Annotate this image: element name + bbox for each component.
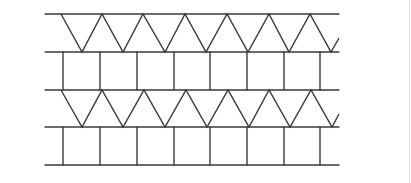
zigzag-strip [61, 90, 339, 127]
zigzag-line [61, 14, 339, 52]
horizontal-lines [45, 14, 339, 165]
frame-right-border [409, 0, 410, 183]
pattern-figure [0, 0, 411, 183]
rectangle-strip [63, 52, 320, 90]
zigzag-line [61, 90, 339, 127]
rectangle-strip [63, 127, 320, 165]
zigzag-strip [61, 14, 339, 52]
